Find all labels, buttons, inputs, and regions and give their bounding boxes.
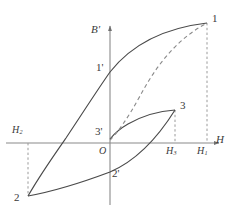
point-label-1: 1 [212,13,218,24]
plot-canvas [0,0,228,217]
curve-initial-magnetization-dashed [110,23,207,140]
origin-label: O [99,146,106,156]
point-label-3: 3 [180,100,186,111]
axis-label-h: H [216,134,224,145]
tick-label-h1: H1 [197,146,208,156]
hysteresis-loop-figure: B' H O H2 H3 H1 1 1' 2 2' 3 3' [0,0,228,217]
axis-label-b: B' [91,24,100,35]
point-label-3-prime: 3' [95,126,102,137]
tick-label-h3: H3 [166,146,177,156]
point-label-1-prime: 1' [96,62,103,73]
point-label-2-prime: 2' [112,168,119,179]
point-label-2: 2 [14,192,20,203]
tick-label-h2: H2 [12,125,23,135]
